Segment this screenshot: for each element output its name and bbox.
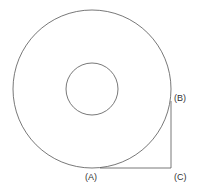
- diagram-canvas: [0, 0, 200, 194]
- outer-circle: [13, 10, 171, 168]
- label-b: (B): [174, 94, 186, 103]
- tangent-lines: [100, 101, 171, 168]
- label-a: (A): [85, 173, 97, 182]
- label-c: (C): [174, 173, 187, 182]
- inner-circle: [66, 63, 118, 115]
